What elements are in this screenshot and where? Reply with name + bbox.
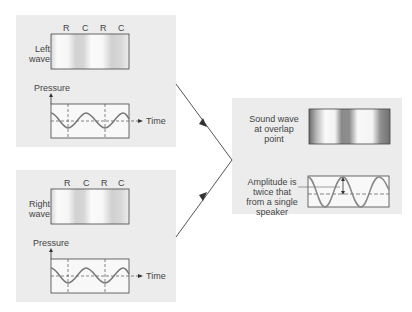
left-wave-label: Left wave [28,44,50,64]
right-marker-r2: R [101,178,108,188]
left-wave-strip [51,34,129,69]
overlap-pressure-graph [298,176,389,207]
right-marker-c2: C [118,178,125,188]
right-marker-c1: C [83,178,90,188]
left-pressure-graph [49,93,143,138]
right-pressure-graph [49,248,143,293]
left-time-label: Time [146,116,166,126]
overlap-wave-strip [309,109,390,144]
amplitude-note: Amplitude is twice that from a single sp… [240,177,304,217]
left-marker-c1: C [82,23,89,33]
left-marker-r2: R [100,23,107,33]
diagram-graphics [0,0,412,312]
right-wave-strip [51,189,129,224]
left-pressure-label: Pressure [34,83,70,93]
right-wave-label: Right wave [22,199,50,219]
left-marker-c2: C [118,23,125,33]
left-marker-r1: R [63,23,70,33]
converging-arrows [176,84,232,237]
right-time-label: Time [146,271,166,281]
right-marker-r1: R [64,178,71,188]
overlap-caption: Sound wave at overlap point [246,114,302,144]
right-pressure-label: Pressure [33,238,69,248]
